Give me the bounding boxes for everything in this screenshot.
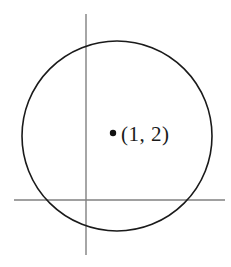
point-coordinate-label: (1, 2) <box>121 124 170 145</box>
circle-shape <box>22 41 212 231</box>
figure-svg-canvas <box>0 0 231 267</box>
geometry-figure: (1, 2) <box>0 0 231 267</box>
point-marker-dot <box>110 130 116 136</box>
